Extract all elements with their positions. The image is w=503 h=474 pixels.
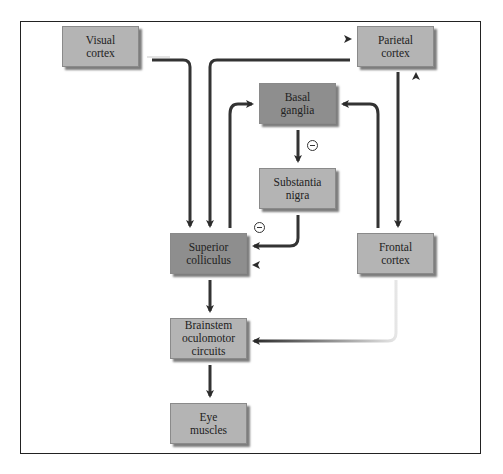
arrow-visual-to-superior [152, 60, 190, 226]
node-eye-muscles: Eye muscles [170, 403, 247, 444]
node-superior-colliculus: Superior colliculus [170, 233, 247, 274]
node-visual-cortex: Visual cortex [62, 26, 139, 67]
node-frontal-cortex: Frontal cortex [357, 233, 434, 274]
node-brainstem-oculomotor-circuits: Brainstem oculomotor circuits [170, 318, 247, 359]
node-substantia-nigra: Substantia nigra [259, 168, 336, 209]
node-label: Visual cortex [86, 34, 115, 60]
node-label: Substantia nigra [274, 176, 322, 202]
node-label: Superior colliculus [186, 241, 231, 267]
arrow-frontal-to-brainstem [254, 280, 396, 341]
node-parietal-cortex: Parietal cortex [357, 26, 434, 67]
node-basal-ganglia: Basal ganglia [259, 83, 336, 124]
node-label: Frontal cortex [379, 241, 412, 267]
arrow-frontal-to-basal [343, 104, 378, 228]
inhibitory-symbol-basal-nigra [307, 140, 318, 151]
node-label: Brainstem oculomotor circuits [182, 319, 235, 358]
arrow-superior-to-basal [230, 104, 252, 228]
node-label: Eye muscles [190, 411, 227, 437]
inhibitory-symbol-nigra-superior [254, 222, 265, 233]
node-label: Parietal cortex [378, 34, 413, 60]
node-label: Basal ganglia [281, 91, 315, 117]
